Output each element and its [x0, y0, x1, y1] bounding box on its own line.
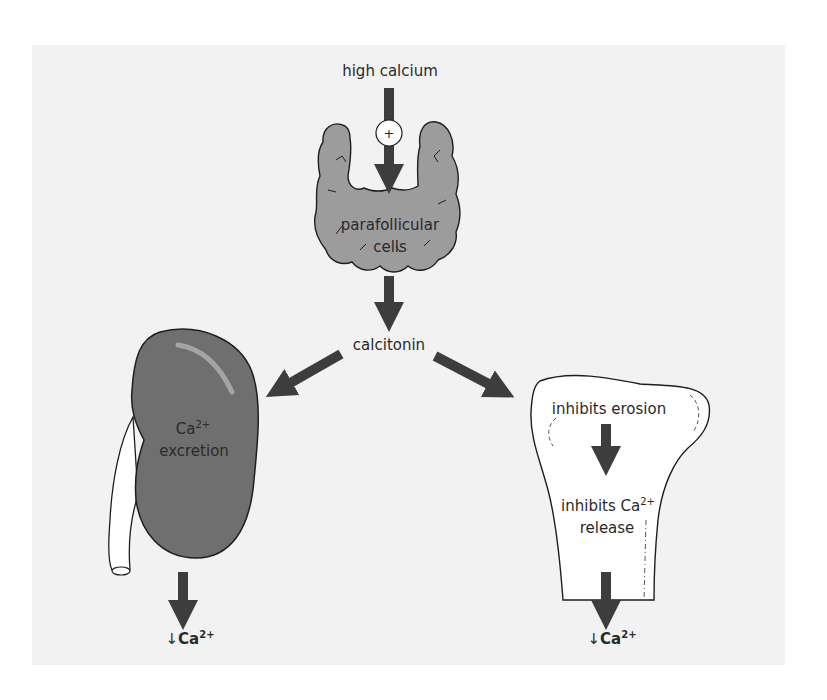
label-parafollicular: parafollicular [341, 216, 439, 235]
arrow-calcitonin-to-kidney [278, 354, 341, 390]
label-cells: cells [373, 238, 407, 257]
label-inhibits-erosion: inhibits erosion [552, 400, 666, 419]
label-bone-result: ↓Ca2+ [587, 630, 636, 649]
label-calcitonin: calcitonin [353, 336, 425, 355]
label-inhibits-ca-release: inhibits Ca2+ [561, 497, 655, 516]
label-high-calcium: high calcium [342, 62, 438, 81]
label-kidney-result: ↓Ca2+ [165, 630, 214, 649]
label-release: release [580, 519, 635, 538]
label-excretion: excretion [159, 442, 229, 461]
arrow-calcitonin-to-bone [435, 356, 502, 391]
label-kidney-ca: Ca2+ [176, 420, 210, 439]
label-plus-sign: + [384, 124, 395, 143]
